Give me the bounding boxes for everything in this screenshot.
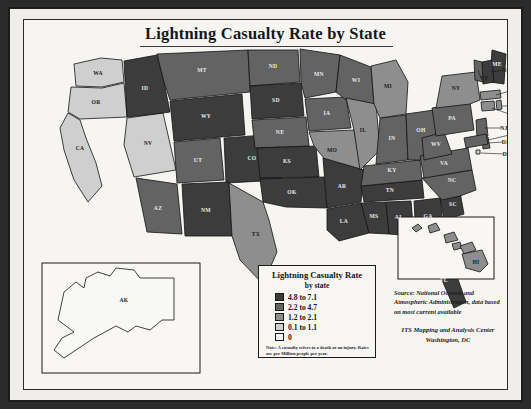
state-label-me: ME — [492, 61, 502, 67]
state-label-wv: WV — [431, 141, 441, 147]
credit-block: ITS Mapping and Analysis Center Washingt… — [394, 325, 502, 344]
legend-swatch — [275, 303, 284, 311]
state-label-ky: KY — [388, 167, 397, 173]
state-label-pa: PA — [448, 115, 456, 121]
state-label-ok: OK — [287, 189, 297, 195]
state-label-ut: UT — [194, 157, 202, 163]
state-label-az: AZ — [154, 205, 162, 211]
state-label-ia: IA — [324, 110, 331, 116]
legend-title: Lightning Casualty Rate — [265, 271, 369, 281]
legend-label: 0.1 to 1.1 — [288, 323, 317, 332]
state-label-wy: WY — [201, 113, 211, 119]
state-label-ar: AR — [338, 183, 347, 189]
state-ma[interactable] — [480, 90, 501, 100]
state-label-tn: TN — [386, 187, 394, 193]
state-label-fl: FL — [440, 277, 448, 283]
legend-label: 0 — [288, 333, 292, 342]
state-ca[interactable] — [60, 113, 102, 202]
state-label-vt: VT — [480, 75, 488, 81]
state-label-hi: HI — [472, 259, 479, 265]
state-label-mt: MT — [197, 67, 207, 73]
state-label-id: ID — [142, 85, 149, 91]
state-mt[interactable] — [157, 50, 250, 100]
state-dc[interactable] — [476, 150, 480, 154]
state-label-nv: NV — [144, 140, 153, 146]
state-label-ny: NY — [452, 85, 461, 91]
credit-location: Washington, DC — [394, 335, 502, 345]
legend-rows: 4.8 to 7.12.2 to 4.71.2 to 2.10.1 to 1.1… — [265, 293, 369, 342]
state-label-ne: NE — [276, 129, 284, 135]
label-leader-dc — [481, 153, 504, 154]
poster-outer-border: Lightning Casualty Rate by State WAORCAN… — [0, 0, 531, 409]
state-label-or: OR — [92, 99, 102, 105]
legend-swatch — [275, 313, 284, 321]
legend-note: Note: A casualty refers to a death or an… — [265, 345, 369, 357]
state-label-al: AL — [395, 214, 403, 220]
state-ct[interactable] — [481, 101, 495, 111]
state-mi[interactable] — [371, 60, 408, 118]
legend-row: 0 — [275, 333, 369, 342]
state-label-la: LA — [340, 218, 348, 224]
state-ri[interactable] — [496, 100, 502, 110]
label-leader-de — [488, 142, 503, 143]
legend-label: 1.2 to 2.1 — [288, 313, 317, 322]
state-label-dc: DC — [503, 151, 507, 157]
state-label-sc: SC — [449, 201, 457, 207]
state-label-va: VA — [440, 160, 448, 166]
state-label-nm: NM — [201, 207, 211, 213]
state-label-ak: AK — [120, 297, 129, 303]
legend-row: 0.1 to 1.1 — [275, 323, 369, 332]
state-label-nh: NH — [503, 67, 508, 73]
legend-swatch — [275, 323, 284, 331]
legend-row: 4.8 to 7.1 — [275, 293, 369, 302]
state-label-de: DE — [502, 139, 507, 145]
map-legend: Lightning Casualty Rate by state 4.8 to … — [258, 265, 376, 358]
state-label-tx: TX — [252, 231, 260, 237]
state-label-wi: WI — [352, 77, 360, 83]
legend-label: 2.2 to 4.7 — [288, 303, 317, 312]
state-label-wa: WA — [93, 70, 103, 76]
state-label-oh: OH — [416, 127, 426, 133]
state-label-mi: MI — [384, 83, 392, 89]
legend-label: 4.8 to 7.1 — [288, 293, 317, 302]
state-label-sd: SD — [272, 97, 280, 103]
legend-subtitle: by state — [265, 281, 369, 290]
legend-swatch — [275, 333, 284, 341]
state-label-ga: GA — [424, 213, 433, 219]
state-label-nj: NJ — [500, 125, 507, 131]
state-label-il: IL — [360, 127, 367, 133]
state-label-mo: MO — [327, 147, 338, 153]
legend-swatch — [275, 293, 284, 301]
state-label-nd: ND — [269, 63, 278, 69]
state-label-ks: KS — [283, 158, 291, 164]
state-label-ms: MS — [370, 213, 379, 219]
state-label-ca: CA — [76, 145, 85, 151]
legend-row: 1.2 to 2.1 — [275, 313, 369, 322]
state-label-nc: NC — [448, 177, 457, 183]
state-label-in: IN — [389, 135, 396, 141]
state-label-co: CO — [248, 155, 257, 161]
legend-row: 2.2 to 4.7 — [275, 303, 369, 312]
source-note: Source: National Oceanic and Atmospheric… — [394, 288, 506, 316]
state-label-mn: MN — [314, 71, 324, 77]
credit-organization: ITS Mapping and Analysis Center — [394, 325, 502, 335]
